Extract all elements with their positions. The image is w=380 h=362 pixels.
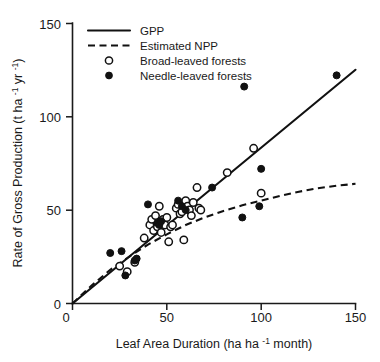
- chart-svg: 150 100 50 0 0 50 100 150 Rate of Gross …: [0, 0, 380, 362]
- plot-data-layer: [73, 70, 356, 304]
- y-axis-title: Rate of Gross Production (t ha -1 yr -1): [10, 59, 25, 268]
- data-point: [224, 169, 231, 176]
- data-point: [197, 206, 204, 213]
- x-axis-tick-labels: 0 50 100 150: [62, 310, 366, 325]
- data-point: [258, 165, 265, 172]
- data-point: [140, 234, 147, 241]
- x-ticklabel-50: 50: [160, 310, 174, 325]
- chart-legend: GPP Estimated NPP Broad-leaved forests N…: [88, 25, 252, 82]
- x-axis-title: Leaf Area Duration (ha ha -1 month): [116, 336, 313, 351]
- y-ticklabel-50: 50: [47, 203, 61, 218]
- data-point: [169, 221, 176, 228]
- data-point: [188, 212, 195, 219]
- data-point: [209, 184, 216, 191]
- legend-label-broad-leaved-forests: Broad-leaved forests: [140, 55, 246, 67]
- x-axis-ticks: [73, 304, 356, 311]
- data-point: [182, 207, 189, 214]
- data-point: [256, 203, 263, 210]
- legend-label-needle-leaved-forests: Needle-leaved forests: [140, 70, 252, 82]
- data-point: [107, 250, 114, 257]
- npp-trend-line: [73, 184, 356, 304]
- y-axis-ticks: [66, 24, 73, 304]
- y-ticklabel-0: 0: [54, 297, 61, 312]
- x-ticklabel-150: 150: [345, 310, 367, 325]
- data-point: [156, 203, 163, 210]
- data-point: [193, 184, 200, 191]
- x-ticklabel-100: 100: [250, 310, 272, 325]
- y-axis-tick-labels: 150 100 50 0: [39, 17, 61, 312]
- data-point: [116, 262, 123, 269]
- data-point: [144, 201, 151, 208]
- legend-label-estimated-npp: Estimated NPP: [140, 40, 218, 52]
- needle-leaved-forest-points: [107, 72, 340, 279]
- data-point: [180, 236, 187, 243]
- data-point: [250, 145, 257, 152]
- x-ticklabel-0: 0: [62, 310, 69, 325]
- y-ticklabel-100: 100: [39, 110, 61, 125]
- y-ticklabel-150: 150: [39, 17, 61, 32]
- legend-label-gpp: GPP: [140, 25, 165, 37]
- gross-production-vs-leaf-area-duration-chart: 150 100 50 0 0 50 100 150 Rate of Gross …: [0, 0, 380, 362]
- data-point: [165, 238, 172, 245]
- data-point: [333, 72, 340, 79]
- data-point: [158, 218, 165, 225]
- data-point: [257, 189, 264, 196]
- data-point: [122, 272, 129, 279]
- data-point: [157, 229, 164, 236]
- legend-marker-filled-circle-icon: [106, 72, 113, 79]
- data-point: [239, 214, 246, 221]
- data-point: [118, 248, 125, 255]
- data-point: [241, 83, 248, 90]
- legend-marker-open-circle-icon: [105, 57, 112, 64]
- data-point: [133, 255, 140, 262]
